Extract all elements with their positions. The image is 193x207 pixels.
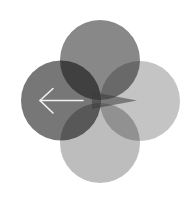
bottom-circle bbox=[60, 103, 140, 183]
four-circle-logo bbox=[0, 0, 193, 207]
